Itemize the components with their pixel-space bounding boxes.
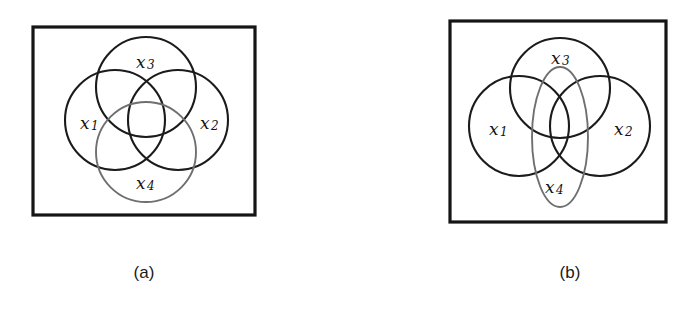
panel-b-label-x4-base: x (545, 177, 555, 197)
panel-b-label-x3-base: x (551, 48, 561, 68)
panel-a: x 1 x 2 x 3 x 4 (a) (33, 27, 255, 282)
panel-a-label-x4-base: x (136, 173, 146, 193)
panel-a-label-x4-sub: 4 (146, 179, 155, 193)
panel-b-label-x1-base: x (489, 119, 499, 139)
panel-a-label-x2-sub: 2 (210, 119, 219, 133)
panel-b-caption: (b) (560, 263, 581, 282)
panel-b-label-x1-sub: 1 (500, 125, 508, 139)
panel-b-label-x4-sub: 4 (555, 183, 564, 197)
set-diagram-figure: x 1 x 2 x 3 x 4 (a) (0, 0, 700, 309)
panel-a-label-x3-sub: 3 (147, 58, 155, 72)
panel-b-label-x2-sub: 2 (624, 125, 633, 139)
panel-a-label-x1-base: x (80, 113, 90, 133)
panel-a-caption: (a) (134, 263, 155, 282)
panel-a-label-x3-base: x (136, 52, 146, 72)
panel-a-label-x1-sub: 1 (91, 119, 99, 133)
panel-b-label-x3-sub: 3 (562, 54, 570, 68)
panel-b-label-x2-base: x (614, 119, 624, 139)
panel-a-label-x2-base: x (200, 113, 210, 133)
figure-root: x 1 x 2 x 3 x 4 (a) (0, 0, 700, 309)
panel-b: x 1 x 2 x 3 x 4 (b) (450, 21, 666, 282)
